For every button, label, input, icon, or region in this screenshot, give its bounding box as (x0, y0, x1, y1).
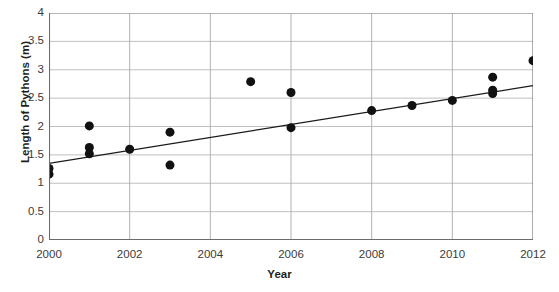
x-tick-label: 2008 (342, 249, 402, 261)
data-point (246, 77, 255, 86)
data-point (166, 128, 175, 137)
data-point (367, 106, 376, 115)
data-point (287, 123, 296, 132)
data-point (488, 89, 497, 98)
data-point (529, 56, 534, 65)
x-tick-label: 2000 (19, 249, 79, 261)
data-point (166, 161, 175, 170)
plot-svg (49, 13, 533, 240)
plot-area (49, 13, 533, 240)
data-point (448, 96, 457, 105)
x-tick-label: 2012 (503, 249, 559, 261)
chart-figure: Length of Pythons (m) Year 00.511.522.53… (0, 0, 559, 292)
data-point (85, 121, 94, 130)
data-point (287, 88, 296, 97)
x-tick-label: 2010 (422, 249, 482, 261)
x-tick-label: 2002 (100, 249, 160, 261)
x-tick-label: 2006 (261, 249, 321, 261)
data-point (85, 149, 94, 158)
x-tick-label: 2004 (180, 249, 240, 261)
data-point (125, 145, 134, 154)
data-point (408, 101, 417, 110)
data-point (488, 73, 497, 82)
